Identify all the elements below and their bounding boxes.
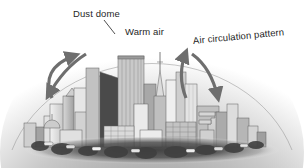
dust-dome-leader-line <box>104 20 115 34</box>
label-dust-dome: Dust dome <box>73 8 120 19</box>
air-circulation-arrow-left <box>48 54 86 98</box>
air-circulation-arrow-right <box>181 52 218 98</box>
label-warm-air: Warm air <box>125 26 164 37</box>
dust-dome-diagram: Dust dome Warm air Air circulation patte… <box>0 0 305 168</box>
